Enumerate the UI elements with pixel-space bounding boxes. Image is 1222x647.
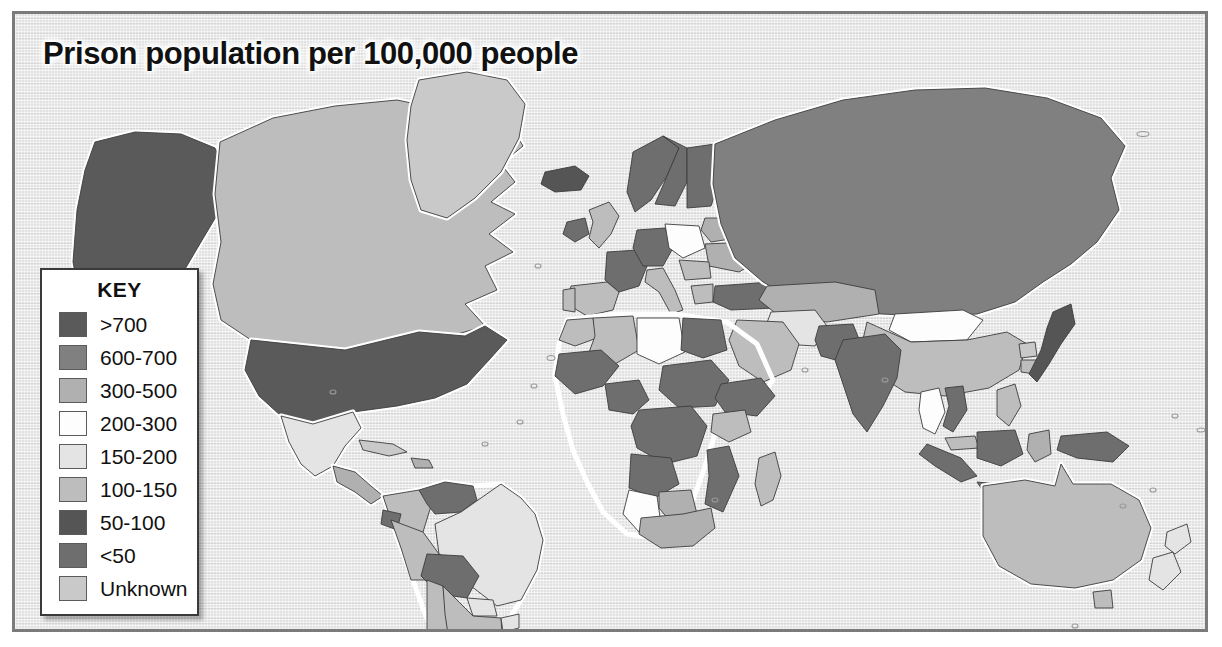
- region-portugal: [563, 288, 575, 312]
- region-egypt: [681, 318, 727, 358]
- legend-label-150-200: 150-200: [100, 446, 177, 467]
- legend-label-600-700: 600-700: [100, 347, 177, 368]
- legend-label-lt50: <50: [100, 545, 136, 566]
- map-legend: KEY >700 600-700 300-500 200-300 150-200: [40, 268, 199, 616]
- legend-swatch-200-300: [59, 411, 87, 436]
- legend-item-lt50[interactable]: <50: [42, 539, 197, 572]
- legend-item-gt700[interactable]: >700: [42, 308, 197, 341]
- region-paraguay: [467, 598, 497, 616]
- region-kenya: [711, 410, 751, 442]
- legend-label-200-300: 200-300: [100, 413, 177, 434]
- region-nigeria: [605, 380, 649, 414]
- region-philippines: [997, 384, 1021, 426]
- legend-swatch-600-700: [59, 345, 87, 370]
- region-group-oceania: [983, 464, 1191, 608]
- region-group-south-america: [381, 482, 543, 629]
- legend-label-unknown: Unknown: [100, 578, 188, 599]
- legend-item-600-700[interactable]: 600-700: [42, 341, 197, 374]
- legend-label-100-150: 100-150: [100, 479, 177, 500]
- region-indonesia-sulawesi: [1027, 430, 1051, 462]
- legend-item-unknown[interactable]: Unknown: [42, 572, 197, 605]
- region-vietnam: [943, 386, 967, 432]
- region-iceland: [541, 166, 589, 192]
- region-ireland: [563, 218, 589, 242]
- region-italy: [645, 268, 683, 314]
- region-papua-new-guinea: [1057, 432, 1129, 462]
- legend-item-50-100[interactable]: 50-100: [42, 506, 197, 539]
- region-new-zealand-north: [1165, 524, 1191, 554]
- page-title: Prison population per 100,000 people: [43, 36, 578, 72]
- region-malaysia: [945, 436, 979, 450]
- legend-swatch-50-100: [59, 510, 87, 535]
- legend-label-gt700: >700: [100, 314, 147, 335]
- map-page: Prison population per 100,000 people KEY…: [0, 0, 1222, 647]
- region-india: [835, 334, 901, 432]
- region-hispaniola: [411, 458, 433, 468]
- region-greece: [691, 284, 713, 304]
- region-poland: [665, 224, 705, 258]
- region-new-zealand-south: [1149, 552, 1181, 590]
- legend-swatch-300-500: [59, 378, 87, 403]
- region-australia: [983, 464, 1151, 588]
- region-united-kingdom: [589, 202, 619, 248]
- region-uruguay: [501, 614, 519, 629]
- region-group-asia: [713, 88, 1129, 494]
- legend-label-50-100: 50-100: [100, 512, 165, 533]
- region-romania: [679, 260, 711, 280]
- legend-item-200-300[interactable]: 200-300: [42, 407, 197, 440]
- legend-item-300-500[interactable]: 300-500: [42, 374, 197, 407]
- legend-title: KEY: [42, 278, 197, 302]
- region-japan: [1029, 304, 1075, 382]
- legend-swatch-gt700: [59, 312, 87, 337]
- region-indonesia-sumatra: [919, 444, 977, 482]
- region-indonesia-borneo: [977, 430, 1023, 466]
- legend-label-300-500: 300-500: [100, 380, 177, 401]
- region-cuba: [359, 440, 407, 456]
- region-thailand: [919, 388, 945, 434]
- region-tasmania: [1093, 590, 1113, 608]
- legend-item-150-200[interactable]: 150-200: [42, 440, 197, 473]
- region-mongolia: [889, 310, 983, 342]
- region-madagascar: [755, 452, 781, 506]
- world-map-figure: Prison population per 100,000 people KEY…: [12, 11, 1208, 632]
- region-libya: [637, 318, 685, 364]
- legend-swatch-100-150: [59, 477, 87, 502]
- region-russia: [713, 88, 1125, 316]
- legend-swatch-lt50: [59, 543, 87, 568]
- region-greenland: [407, 72, 525, 218]
- region-north-korea: [1019, 342, 1037, 358]
- legend-swatch-150-200: [59, 444, 87, 469]
- region-mozambique: [705, 446, 739, 512]
- legend-swatch-unknown: [59, 576, 87, 601]
- legend-item-100-150[interactable]: 100-150: [42, 473, 197, 506]
